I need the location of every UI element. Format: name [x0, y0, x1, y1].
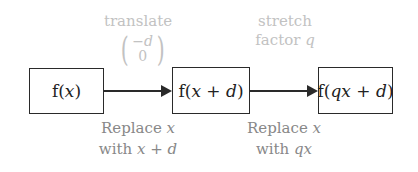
arrow-stretch — [250, 90, 316, 92]
replace-x-with-qx-label: Replace x with qx — [234, 118, 334, 160]
stretch-factor-label: stretch factor q — [240, 12, 330, 50]
translate-label: translate — [96, 12, 180, 31]
box-text: f(x) — [52, 81, 81, 101]
function-box-fx: f(x) — [29, 68, 104, 114]
function-box-fx-plus-d: f(x + d) — [172, 67, 250, 114]
function-box-fqx-plus-d: f(qx + d) — [318, 67, 393, 114]
vector-entries: −d 0 — [131, 34, 154, 64]
left-paren: ( — [121, 31, 129, 67]
right-paren: ) — [157, 31, 165, 67]
replace-x-with-x-plus-d-label: Replace x with x + d — [88, 118, 188, 160]
box-text: f(qx + d) — [318, 81, 394, 101]
box-text: f(x + d) — [178, 81, 243, 101]
arrow-translate — [104, 90, 170, 92]
translation-vector: ( −d 0 ) — [118, 31, 167, 67]
